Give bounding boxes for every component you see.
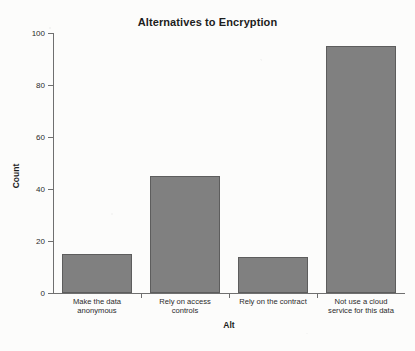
y-tick-label: 40 xyxy=(36,185,45,194)
y-tick-mark xyxy=(48,189,53,190)
y-tick-mark xyxy=(48,137,53,138)
y-tick-mark xyxy=(48,293,53,294)
y-tick-label: 20 xyxy=(36,237,45,246)
chart-title: Alternatives to Encryption xyxy=(0,16,415,28)
bar xyxy=(326,46,396,293)
x-category-label: Make the dataanonymous xyxy=(53,297,141,315)
y-tick-label: 100 xyxy=(32,29,45,38)
y-tick-label: 80 xyxy=(36,81,45,90)
x-category-label: Rely on the contract xyxy=(229,297,317,306)
plot-area: 020406080100 Make the dataanonymousRely … xyxy=(53,33,405,293)
bar-chart-figure: Alternatives to Encryption Count 0204060… xyxy=(0,0,415,351)
x-category-label-line: service for this data xyxy=(317,306,405,315)
y-tick-mark xyxy=(48,85,53,86)
x-category-label-line: Rely on the contract xyxy=(229,297,317,306)
y-tick-mark xyxy=(48,33,53,34)
x-category-label: Rely on accesscontrols xyxy=(141,297,229,315)
x-axis-title: Alt xyxy=(53,320,405,330)
y-tick-mark xyxy=(48,241,53,242)
x-category-label-line: Not use a cloud xyxy=(317,297,405,306)
y-tick-label: 0 xyxy=(41,289,45,298)
bar xyxy=(62,254,132,293)
x-category-label: Not use a cloudservice for this data xyxy=(317,297,405,315)
y-axis-line xyxy=(53,33,54,293)
x-category-label-line: controls xyxy=(141,306,229,315)
bar xyxy=(238,257,308,293)
y-tick-label: 60 xyxy=(36,133,45,142)
bar xyxy=(150,176,220,293)
x-category-label-line: anonymous xyxy=(53,306,141,315)
x-category-label-line: Make the data xyxy=(53,297,141,306)
y-axis-title: Count xyxy=(11,163,21,188)
x-category-label-line: Rely on access xyxy=(141,297,229,306)
